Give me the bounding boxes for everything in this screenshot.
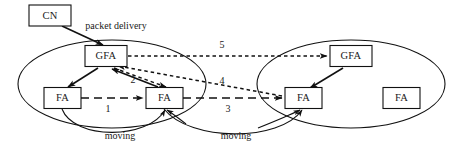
node-fa-left-1-label: FA <box>56 92 69 103</box>
label-step-5: 5 <box>220 39 225 50</box>
node-fa-left-2[interactable]: FA <box>146 88 183 109</box>
diagram-svg: CN GFA FA FA GFA FA FA packet delivery <box>0 0 462 155</box>
node-fa-right-2[interactable]: FA <box>383 88 420 109</box>
diagram-canvas: CN GFA FA FA GFA FA FA packet delivery <box>0 0 462 155</box>
label-step-2: 2 <box>131 74 136 85</box>
edge-gfa-left-to-fa-left-1 <box>68 68 98 87</box>
label-step-3: 3 <box>226 103 231 114</box>
node-gfa-left[interactable]: GFA <box>85 46 127 67</box>
node-fa-left-1[interactable]: FA <box>44 88 81 109</box>
node-fa-right-2-label: FA <box>395 92 408 103</box>
node-gfa-right[interactable]: GFA <box>330 46 372 67</box>
node-gfa-right-label: GFA <box>341 50 362 61</box>
label-moving-left: moving <box>105 130 136 141</box>
label-packet-delivery: packet delivery <box>85 20 146 31</box>
label-moving-right: moving <box>221 130 252 141</box>
node-fa-left-2-label: FA <box>158 92 171 103</box>
node-cn-label: CN <box>43 10 58 21</box>
node-fa-right-1-label: FA <box>297 92 310 103</box>
edge-inbound-fa-left-2 <box>167 110 186 124</box>
edge-gfa-right-to-fa-right-1 <box>310 68 343 88</box>
node-fa-right-1[interactable]: FA <box>285 88 322 109</box>
label-step-1: 1 <box>106 103 111 114</box>
label-step-4: 4 <box>220 75 225 86</box>
moving-arc-left <box>62 109 165 132</box>
edge-step-2 <box>114 68 166 87</box>
node-gfa-left-label: GFA <box>96 50 117 61</box>
node-cn[interactable]: CN <box>29 5 71 26</box>
